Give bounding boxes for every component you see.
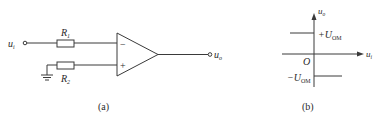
- input-terminal: [23, 41, 27, 45]
- r2-label: R2: [60, 73, 70, 85]
- y-axis-arrow-icon: [312, 13, 317, 20]
- ground-icon: [41, 75, 53, 80]
- x-axis-label: ui: [366, 49, 373, 60]
- input-label: ui: [8, 38, 15, 50]
- negative-level-label: −UOM: [287, 72, 311, 84]
- origin-label: O: [303, 56, 310, 67]
- r1-label: R1: [60, 27, 70, 39]
- positive-level-label: +UOM: [318, 29, 342, 41]
- output-label: uo: [214, 49, 222, 61]
- diagram-canvas: − + ui R1 R2 uo (a) uo ui O +UOM −UOM (b…: [0, 0, 388, 121]
- y-axis-label: uo: [318, 6, 326, 17]
- plus-input-sign: +: [120, 60, 126, 71]
- caption-a: (a): [98, 101, 109, 113]
- circuit-figure-a: [23, 33, 212, 80]
- resistor-r1: [57, 40, 74, 47]
- output-terminal: [208, 53, 212, 57]
- caption-b: (b): [302, 101, 314, 113]
- minus-input-sign: −: [120, 39, 126, 50]
- x-axis-arrow-icon: [357, 52, 364, 57]
- resistor-r2: [57, 62, 74, 69]
